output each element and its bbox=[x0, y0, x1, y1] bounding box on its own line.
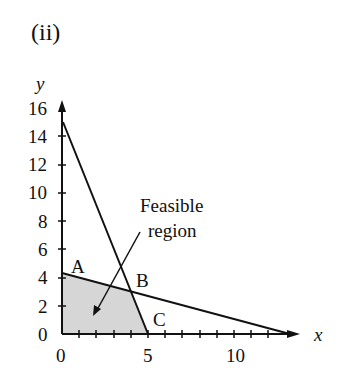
x-tick-label: 5 bbox=[143, 346, 153, 365]
y-tick-label: 8 bbox=[38, 212, 48, 231]
feasible-region-label: Feasible bbox=[140, 196, 203, 215]
y-tick-label: 12 bbox=[28, 155, 47, 174]
x-axis-label: x bbox=[314, 325, 322, 344]
y-tick-label: 14 bbox=[28, 127, 47, 146]
point-a-label: A bbox=[71, 257, 85, 276]
y-axis-arrow-icon bbox=[58, 100, 66, 112]
x-tick-label: 0 bbox=[56, 346, 66, 365]
point-b-label: B bbox=[136, 271, 149, 290]
y-tick-label: 0 bbox=[38, 325, 48, 344]
feasible-region-label: region bbox=[148, 221, 197, 240]
y-tick-label: 10 bbox=[28, 183, 47, 202]
chart-plot bbox=[0, 0, 346, 376]
y-axis-label: y bbox=[36, 74, 44, 93]
y-tick-label: 16 bbox=[28, 99, 47, 118]
y-tick-label: 6 bbox=[38, 240, 48, 259]
y-tick-label: 4 bbox=[38, 268, 48, 287]
point-c-label: C bbox=[153, 310, 166, 329]
y-tick-label: 2 bbox=[38, 297, 48, 316]
x-tick-label: 10 bbox=[226, 346, 245, 365]
